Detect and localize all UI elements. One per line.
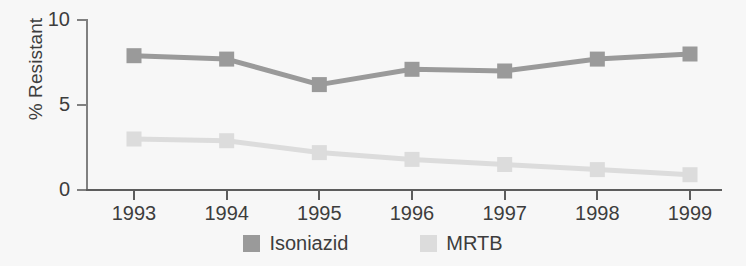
series-isoniazid [127, 47, 698, 93]
legend-label: Isoniazid [269, 233, 348, 253]
data-point-marker [405, 152, 420, 167]
data-point-marker [312, 77, 327, 92]
data-point-marker [683, 167, 698, 182]
data-point-marker [405, 62, 420, 77]
resistance-trend-chart: % Resistant 0510 19931994199519961997199… [0, 0, 746, 266]
data-point-marker [219, 52, 234, 67]
data-point-marker [590, 52, 605, 67]
data-point-marker [219, 133, 234, 148]
series-mrtb [127, 132, 698, 183]
data-point-marker [590, 162, 605, 177]
legend-swatch-icon [420, 235, 437, 252]
legend-swatch-icon [243, 235, 260, 252]
data-point-marker [127, 132, 142, 147]
data-point-marker [127, 48, 142, 63]
legend-item-isoniazid[interactable]: Isoniazid [243, 233, 348, 253]
legend-label: MRTB [446, 233, 502, 253]
data-point-marker [312, 145, 327, 160]
chart-legend: IsoniazidMRTB [0, 233, 746, 253]
data-point-marker [497, 157, 512, 172]
data-point-marker [683, 47, 698, 62]
legend-item-mrtb[interactable]: MRTB [420, 233, 502, 253]
series-plot-area [0, 0, 746, 266]
data-point-marker [497, 64, 512, 79]
